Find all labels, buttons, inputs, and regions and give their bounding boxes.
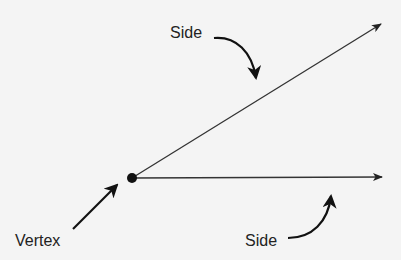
side-bottom-label: Side — [245, 233, 277, 249]
vertex-label: Vertex — [15, 233, 60, 249]
vertex-pointer-arrow — [73, 185, 117, 229]
vertex-dot — [127, 173, 137, 183]
upper-ray — [132, 24, 381, 178]
side-top-label: Side — [170, 25, 202, 41]
lower-ray — [132, 177, 382, 178]
side-top-pointer-arrow — [214, 38, 256, 78]
side-bottom-pointer-arrow — [288, 196, 331, 238]
